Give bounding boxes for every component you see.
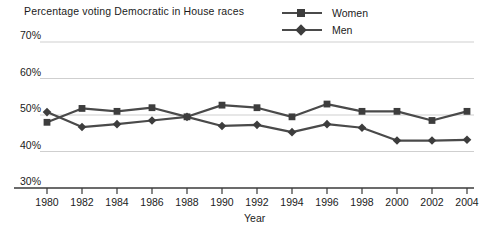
- data-point-women: [289, 113, 296, 120]
- x-axis-tick-label: 2000: [377, 196, 417, 208]
- x-axis-tick-label: 2004: [447, 196, 483, 208]
- data-point-men: [148, 116, 157, 125]
- data-point-men: [253, 121, 262, 130]
- data-point-women: [219, 102, 226, 109]
- data-point-women: [464, 108, 471, 115]
- x-axis-tick-label: 1988: [167, 196, 207, 208]
- x-axis-tick-label: 1980: [27, 196, 67, 208]
- x-axis-tick-label: 1998: [342, 196, 382, 208]
- x-axis-tick-label: 1994: [272, 196, 312, 208]
- x-axis-tick-label: 1996: [307, 196, 347, 208]
- data-point-women: [79, 105, 86, 112]
- x-axis-tick-label: 1982: [62, 196, 102, 208]
- data-point-women: [149, 104, 156, 111]
- data-point-women: [44, 119, 51, 126]
- x-axis-title: Year: [244, 212, 265, 224]
- x-axis-tick-label: 1984: [97, 196, 137, 208]
- data-point-men: [393, 136, 402, 145]
- data-point-men: [323, 120, 332, 129]
- x-axis-tick-label: 1992: [237, 196, 277, 208]
- data-point-women: [254, 104, 261, 111]
- x-axis-tick-label: 1986: [132, 196, 172, 208]
- data-point-men: [218, 122, 227, 131]
- data-point-women: [394, 108, 401, 115]
- data-point-women: [114, 108, 121, 115]
- data-point-women: [429, 117, 436, 124]
- data-point-women: [359, 108, 366, 115]
- data-point-men: [113, 120, 122, 129]
- x-axis-tick-label: 1990: [202, 196, 242, 208]
- data-point-men: [463, 136, 472, 145]
- x-axis-tick-label: 2002: [412, 196, 452, 208]
- data-point-women: [324, 101, 331, 108]
- data-point-men: [358, 123, 367, 132]
- data-point-men: [428, 136, 437, 145]
- data-point-men: [78, 123, 87, 132]
- data-point-men: [288, 128, 297, 137]
